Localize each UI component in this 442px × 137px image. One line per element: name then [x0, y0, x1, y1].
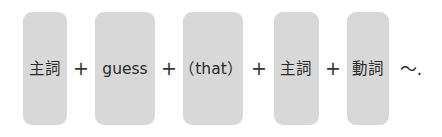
slot-that-label: （that） — [179, 58, 242, 80]
plus-operator: + — [251, 57, 267, 79]
plus-operator: + — [161, 57, 177, 79]
plus-operator: + — [73, 57, 89, 79]
ending-tilde: ～. — [400, 58, 422, 80]
slot-subject-label: 主詞 — [29, 58, 61, 80]
slot-subject2-label: 主詞 — [280, 58, 312, 80]
slot-verb-label: 動詞 — [352, 58, 384, 80]
slot-guess-label: guess — [102, 58, 147, 80]
plus-operator: + — [325, 57, 341, 79]
